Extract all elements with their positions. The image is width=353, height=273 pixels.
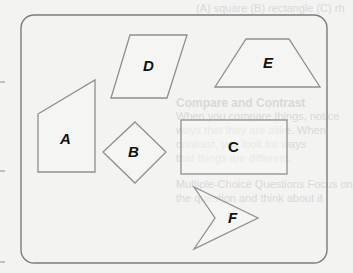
shape-a-outline [38,80,95,172]
shape-c: C [181,120,287,174]
shape-d: D [111,35,187,98]
shape-a-label: A [59,130,71,147]
shape-a: A [38,80,95,172]
shape-c-label: C [228,138,239,155]
shape-f-outline [194,187,258,249]
shape-f-label: F [228,209,238,226]
shape-d-label: D [143,57,154,74]
shape-f: F [194,187,258,249]
shape-b: B [103,122,166,183]
shape-b-label: B [128,143,139,160]
shape-e: E [215,39,320,87]
shape-e-label: E [263,54,274,71]
